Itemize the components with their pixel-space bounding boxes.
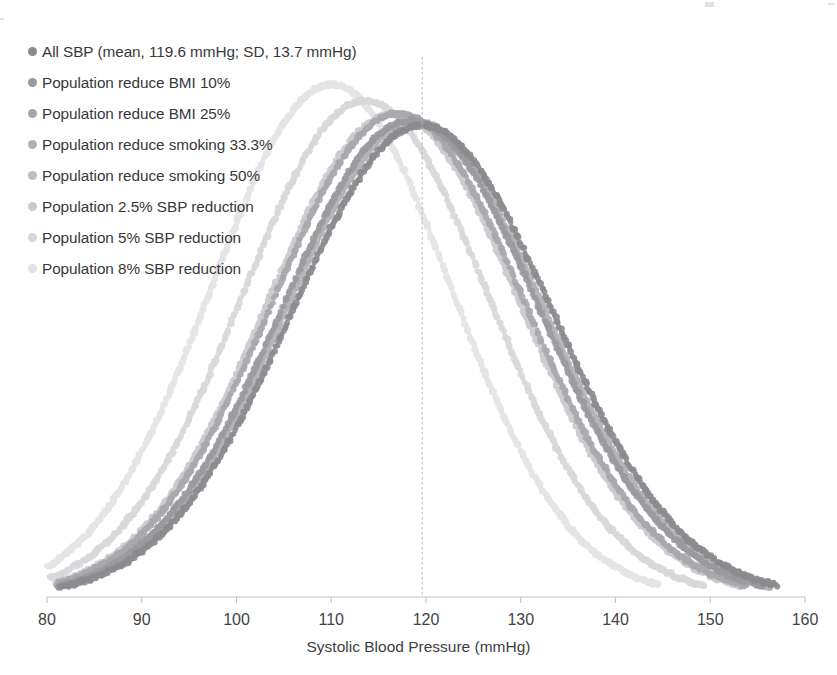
legend-item[interactable]: Population reduce BMI 10% xyxy=(28,67,368,98)
x-axis-title: Systolic Blood Pressure (mmHg) xyxy=(0,638,837,656)
legend-item[interactable]: Population reduce smoking 33.3% xyxy=(28,129,368,160)
legend-item[interactable]: Population 5% SBP reduction xyxy=(28,222,368,253)
x-tick-label: 120 xyxy=(413,611,440,629)
legend-item[interactable]: Population reduce smoking 50% xyxy=(28,160,368,191)
x-tick-label: 130 xyxy=(507,611,534,629)
x-tick-label: 140 xyxy=(602,611,629,629)
legend-item-label: Population reduce smoking 50% xyxy=(42,168,260,183)
x-axis-ticks xyxy=(47,597,805,603)
legend-marker-icon xyxy=(28,140,37,149)
chart-legend: All SBP (mean, 119.6 mmHg; SD, 13.7 mmHg… xyxy=(28,36,368,284)
legend-marker-icon xyxy=(28,47,37,56)
legend-item-label: Population reduce smoking 33.3% xyxy=(42,137,273,152)
legend-marker-icon xyxy=(28,109,37,118)
legend-marker-icon xyxy=(28,233,37,242)
legend-item[interactable]: Population 2.5% SBP reduction xyxy=(28,191,368,222)
legend-item-label: Population 5% SBP reduction xyxy=(42,230,241,245)
x-tick-label: 90 xyxy=(133,611,151,629)
x-tick-label: 100 xyxy=(223,611,250,629)
legend-item[interactable]: All SBP (mean, 119.6 mmHg; SD, 13.7 mmHg… xyxy=(28,36,368,67)
legend-marker-icon xyxy=(28,264,37,273)
x-tick-label: 110 xyxy=(318,611,344,629)
x-tick-label: 80 xyxy=(38,611,56,629)
legend-item[interactable]: Population 8% SBP reduction xyxy=(28,253,368,284)
legend-marker-icon xyxy=(28,171,37,180)
x-tick-label: 160 xyxy=(792,611,819,629)
legend-item-label: All SBP (mean, 119.6 mmHg; SD, 13.7 mmHg… xyxy=(42,44,356,59)
legend-marker-icon xyxy=(28,202,37,211)
legend-marker-icon xyxy=(28,78,37,87)
legend-item-label: Population 8% SBP reduction xyxy=(42,261,241,276)
legend-item-label: Population reduce BMI 25% xyxy=(42,106,230,121)
legend-item-label: Population reduce BMI 10% xyxy=(42,75,230,90)
x-tick-label: 150 xyxy=(697,611,724,629)
legend-item[interactable]: Population reduce BMI 25% xyxy=(28,98,368,129)
chart-figure: All SBP (mean, 119.6 mmHg; SD, 13.7 mmHg… xyxy=(0,0,837,675)
legend-item-label: Population 2.5% SBP reduction xyxy=(42,199,254,214)
